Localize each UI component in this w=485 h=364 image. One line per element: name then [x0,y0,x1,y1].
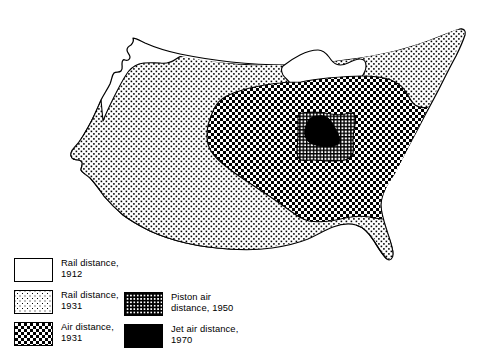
legend-entry-rail-1912[interactable]: Rail distance, 1912 [14,258,132,282]
legend-swatch-jet-1970 [124,324,163,348]
legend-label-rail-1931: Rail distance, 1931 [61,290,119,311]
legend-column-right: Piston air distance, 1950 Jet air distan… [124,292,314,356]
legend-entry-air-1931[interactable]: Air distance, 1931 [14,322,132,346]
figure-shrinking-map: Rail distance, 1912 Rail distance, 1931 … [0,0,485,364]
legend-label-piston-1950: Piston air distance, 1950 [171,292,233,313]
legend-entry-piston-1950[interactable]: Piston air distance, 1950 [124,292,314,316]
legend-swatch-rail-1931 [14,290,53,314]
legend-entry-jet-1970[interactable]: Jet air distance, 1970 [124,324,314,348]
legend-entry-rail-1931[interactable]: Rail distance, 1931 [14,290,132,314]
legend-label-air-1931: Air distance, 1931 [61,322,114,343]
legend: Rail distance, 1912 Rail distance, 1931 … [14,258,314,358]
legend-label-jet-1970: Jet air distance, 1970 [171,324,238,345]
legend-swatch-air-1931 [14,322,53,346]
legend-swatch-piston-1950 [124,292,163,316]
legend-swatch-rail-1912 [14,258,53,282]
legend-label-rail-1912: Rail distance, 1912 [61,258,119,279]
legend-column-left: Rail distance, 1912 Rail distance, 1931 … [14,258,132,354]
